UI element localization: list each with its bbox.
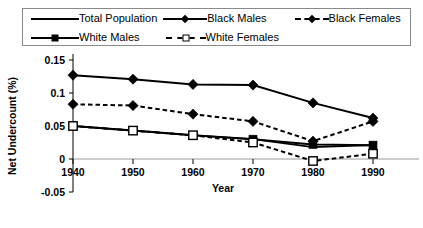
data-point-white-females-1970 (249, 138, 257, 146)
legend-label-black-females: Black Females (329, 13, 401, 24)
line-solid-icon (31, 12, 79, 26)
data-point-black-females-1950 (128, 100, 138, 110)
legend-label-black-males: Black Males (207, 13, 266, 24)
y-axis-tick-label: 0.1 (50, 87, 65, 99)
data-point-white-males-1990 (369, 141, 377, 149)
data-point-white-females-1950 (129, 126, 137, 134)
series-line-black-males (73, 75, 373, 118)
x-axis-tick-label: 1970 (241, 166, 265, 178)
data-point-white-females-1960 (189, 131, 197, 139)
y-axis-tick-label: 0.05 (45, 120, 66, 132)
y-axis-tick-label: 0.15 (45, 54, 66, 66)
line-dashed-square-open-icon (166, 31, 206, 45)
legend-label-white-females: White Females (206, 32, 279, 43)
x-axis-tick-label: 1960 (181, 166, 205, 178)
x-axis-title: Year (212, 182, 234, 194)
line-solid-square-icon (31, 31, 79, 45)
x-axis-tick-label: 1940 (61, 166, 85, 178)
legend-label-total-population: Total Population (79, 13, 157, 24)
line-chart: 0.150.10.050-0.0519401950196019701980199… (0, 46, 423, 228)
series-layer (68, 70, 378, 165)
labels-layer: 0.150.10.050-0.0519401950196019701980199… (6, 54, 385, 198)
legend-row-1: Total Population Black Males Black Femal… (23, 9, 410, 28)
legend-item-white-females: White Females (166, 28, 279, 47)
data-point-black-females-1940 (68, 99, 78, 109)
data-point-white-females-1980 (309, 157, 317, 165)
x-axis-tick-label: 1950 (121, 166, 145, 178)
chart-screenshot: Total Population Black Males Black Femal… (0, 0, 423, 228)
data-point-black-males-1970 (248, 80, 258, 90)
series-line-white-females (73, 126, 373, 161)
plot-area: 0.150.10.050-0.0519401950196019701980199… (0, 46, 423, 228)
y-axis-tick-label: -0.05 (41, 186, 65, 198)
series-line-black-females (73, 104, 373, 141)
legend-row-2: White Males White Females (23, 28, 410, 47)
legend-item-black-males: Black Males (163, 9, 266, 28)
data-point-black-males-1950 (128, 74, 138, 84)
chart-legend: Total Population Black Males Black Femal… (22, 8, 411, 46)
x-axis-tick-label: 1990 (361, 166, 385, 178)
data-point-black-males-1960 (188, 79, 198, 89)
legend-label-white-males: White Males (79, 32, 140, 43)
legend-item-total-population: Total Population (31, 9, 157, 28)
data-point-white-females-1990 (369, 150, 377, 158)
line-solid-diamond-icon (163, 12, 207, 26)
data-point-black-males-1980 (308, 98, 318, 108)
y-axis-title: Net Undercount (%) (6, 77, 18, 175)
data-point-white-females-1940 (69, 122, 77, 130)
data-point-black-males-1940 (68, 70, 78, 80)
data-point-black-females-1970 (248, 116, 258, 126)
legend-item-white-males: White Males (31, 28, 140, 47)
data-point-white-males-1980 (309, 140, 317, 148)
line-dashed-diamond-icon (295, 12, 329, 26)
y-axis-tick-label: 0 (59, 153, 65, 165)
legend-item-black-females: Black Females (295, 9, 401, 28)
x-axis-tick-label: 1980 (301, 166, 325, 178)
data-point-black-females-1960 (188, 109, 198, 119)
